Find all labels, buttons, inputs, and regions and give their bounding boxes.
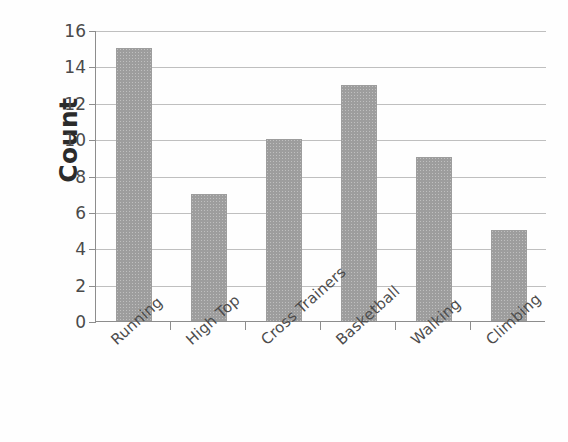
y-axis-tick-label: 8 xyxy=(50,169,86,186)
x-axis-tick-mark xyxy=(320,322,321,330)
y-axis-tick-mark xyxy=(89,177,96,178)
y-axis-tick-label: 0 xyxy=(50,314,86,331)
y-axis-tick-label: 4 xyxy=(50,241,86,258)
gridline xyxy=(96,177,546,178)
y-axis-tick-mark xyxy=(89,31,96,32)
y-axis-tick-mark xyxy=(89,286,96,287)
y-axis-tick-labels: 1614121086420 xyxy=(46,31,86,322)
y-axis-tick-label: 16 xyxy=(50,23,86,40)
gridline xyxy=(96,140,546,141)
y-axis-tick-label: 14 xyxy=(50,59,86,76)
gridline xyxy=(96,31,546,32)
y-axis-tick-label: 6 xyxy=(50,205,86,222)
x-axis-tick-mark xyxy=(470,322,471,330)
gridline xyxy=(96,104,546,105)
y-axis-tick-mark xyxy=(89,104,96,105)
y-axis-tick-label: 12 xyxy=(50,96,86,113)
bar xyxy=(341,85,377,321)
x-axis-tick-mark xyxy=(395,322,396,330)
y-axis-tick-label: 2 xyxy=(50,278,86,295)
x-axis-tick-mark xyxy=(170,322,171,330)
bar xyxy=(116,48,152,321)
gridline xyxy=(96,67,546,68)
gridline xyxy=(96,213,546,214)
bar xyxy=(266,139,302,321)
gridline xyxy=(96,249,546,250)
y-axis-tick-mark xyxy=(89,213,96,214)
y-axis-tick-mark xyxy=(89,67,96,68)
x-axis-tick-mark xyxy=(245,322,246,330)
bar xyxy=(416,157,452,321)
y-axis-tick-mark xyxy=(89,322,96,323)
y-axis-tick-mark xyxy=(89,140,96,141)
y-axis-tick-mark xyxy=(89,249,96,250)
bar-chart: Count 1614121086420 RunningHigh TopCross… xyxy=(0,0,568,442)
y-axis-tick-label: 10 xyxy=(50,132,86,149)
